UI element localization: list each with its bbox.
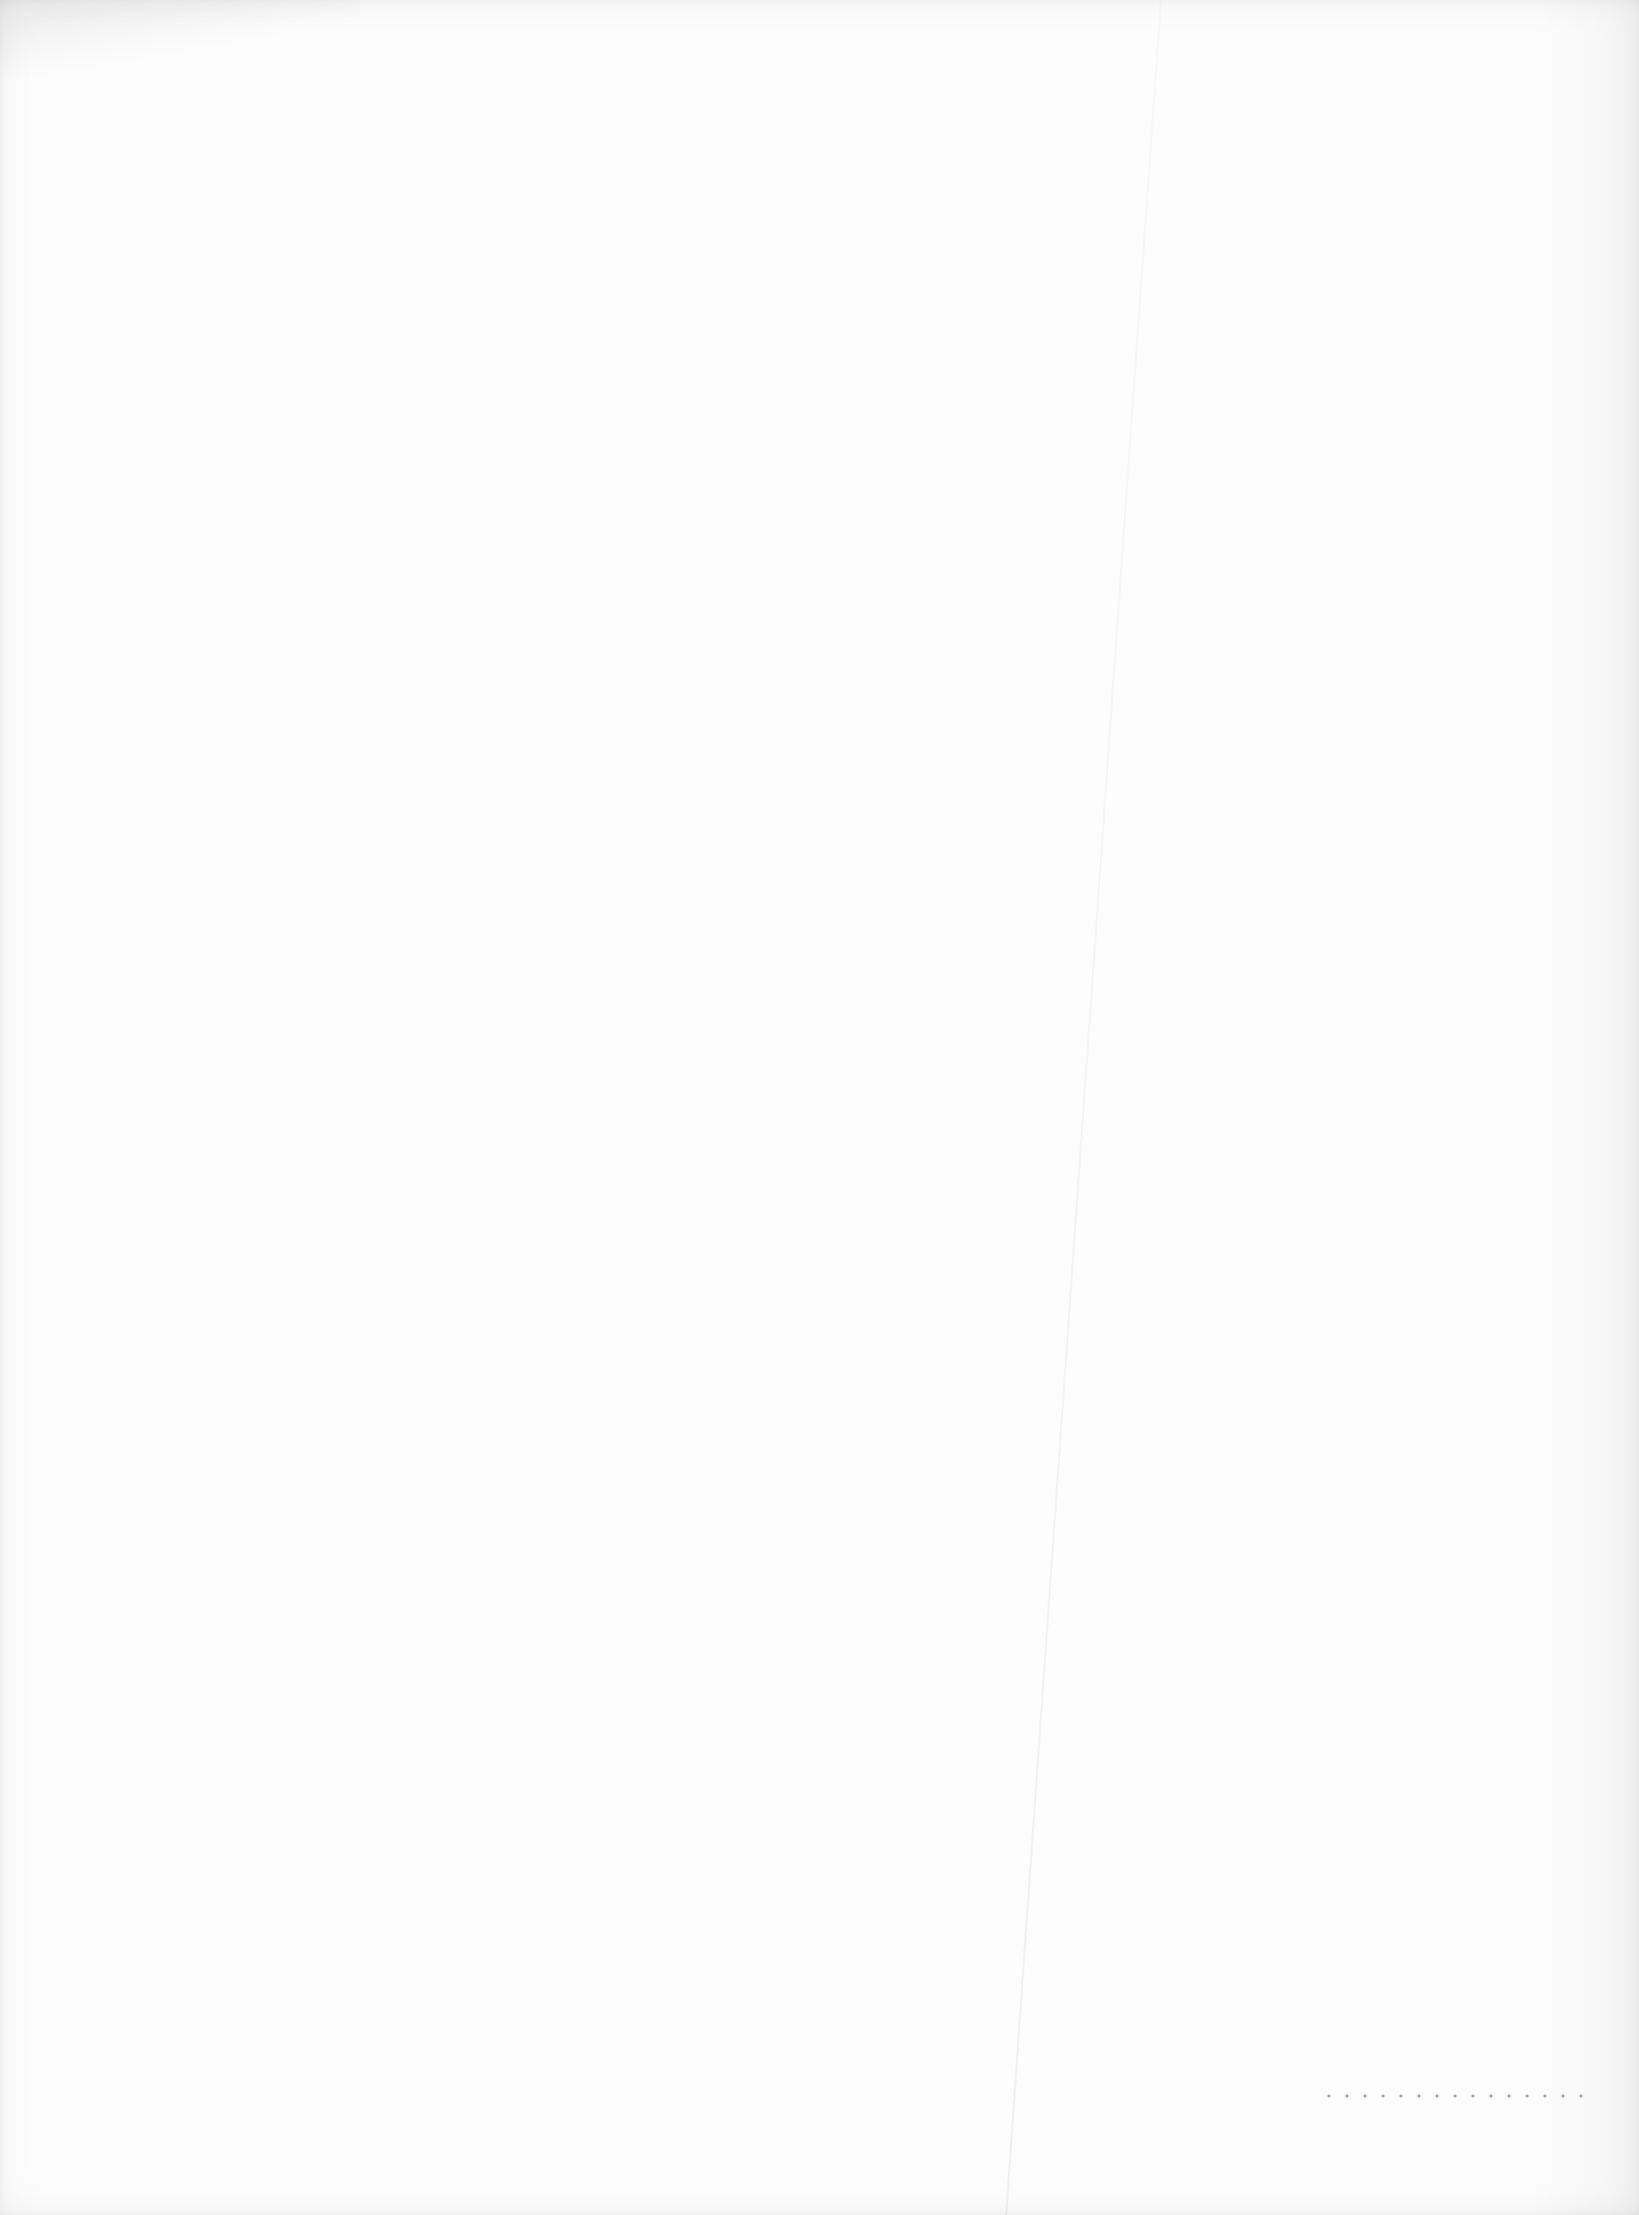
fold-line — [1005, 0, 1162, 2215]
scanned-page — [0, 0, 1639, 2215]
page-edge-shadow — [1529, 0, 1639, 2215]
corner-shadow — [0, 0, 360, 80]
scanner-specks — [1320, 2093, 1590, 2099]
